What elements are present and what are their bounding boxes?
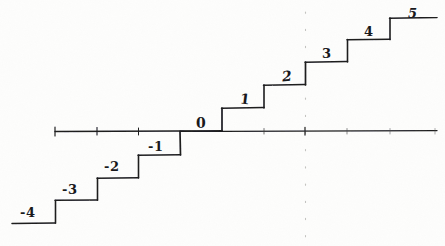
step-function-plot xyxy=(0,0,445,246)
step-label-one: 1 xyxy=(239,91,250,106)
x-axis xyxy=(55,127,437,136)
step-label-two: 2 xyxy=(281,69,292,84)
step-label-neg4: -4 xyxy=(20,206,35,219)
step-label-zero: 0 xyxy=(196,116,206,130)
step-label-five: 5 xyxy=(408,7,417,20)
step-label-neg1: -1 xyxy=(148,140,163,153)
step-label-neg2: -2 xyxy=(104,160,119,173)
step-label-three: 3 xyxy=(322,47,331,60)
step-label-neg3: -3 xyxy=(62,183,77,196)
step-label-four: 4 xyxy=(364,25,373,38)
step-function-figure: -4 -3 -2 -1 0 1 2 3 4 5 xyxy=(0,0,445,246)
